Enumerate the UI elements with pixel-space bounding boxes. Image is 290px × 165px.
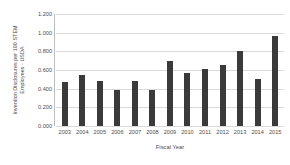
bar[interactable] [114,90,120,126]
bar-slot [214,14,232,126]
bar-slot [231,14,249,126]
x-axis-tick-label: 2012 [214,128,232,140]
bar-slot [109,14,127,126]
x-axis-tick-label: 2013 [231,128,249,140]
y-axis-title: Invention Disclosures per 100 STEM Emplo… [8,14,30,126]
x-axis-tick-label: 2014 [249,128,267,140]
y-axis-title-line-2: Employees - USDA [19,25,26,114]
bar[interactable] [255,79,261,126]
x-axis-tick-label: 2004 [74,128,92,140]
y-axis-tick-label: 0.400 [38,86,52,92]
bar[interactable] [149,90,155,126]
y-axis-tick-label: 1.000 [38,30,52,36]
y-axis-tick-labels: 0.0000.2000.4000.6000.8001.0001.200 [28,14,54,126]
bar[interactable] [132,81,138,126]
x-axis-tick-label: 2006 [109,128,127,140]
bar-slot [126,14,144,126]
bar-slot [196,14,214,126]
x-axis-tick-label: 2003 [56,128,74,140]
bar-slot [56,14,74,126]
x-axis-tick-label: 2011 [196,128,214,140]
bar-slot [179,14,197,126]
bar-chart: Invention Disclosures per 100 STEM Emplo… [0,0,290,165]
bar[interactable] [202,69,208,126]
bar-slot [266,14,284,126]
x-axis-tick-label: 2007 [126,128,144,140]
bar[interactable] [184,73,190,126]
y-axis-tick-label: 0.200 [38,104,52,110]
y-axis-tick-label: 0.000 [38,123,52,129]
bar[interactable] [167,61,173,126]
x-axis-tick-label: 2008 [144,128,162,140]
bar[interactable] [272,36,278,126]
bar-slot [161,14,179,126]
x-axis-tick-label: 2015 [266,128,284,140]
bar[interactable] [97,81,103,126]
x-axis-tick-label: 2010 [179,128,197,140]
bar[interactable] [237,51,243,126]
bar[interactable] [220,65,226,126]
bar[interactable] [79,75,85,126]
y-axis-title-line-1: Invention Disclosures per 100 STEM [12,25,19,114]
y-axis-tick-label: 0.800 [38,48,52,54]
y-axis-tick-label: 0.600 [38,67,52,73]
x-axis-tick-label: 2005 [91,128,109,140]
bar-slot [144,14,162,126]
bar-slot [249,14,267,126]
x-axis-title: Fiscal Year [56,143,284,151]
y-axis-line [54,14,55,126]
plot-area [56,14,284,126]
x-axis-tick-labels: 2003200420052006200720082009201020112012… [56,128,284,140]
bar-slot [74,14,92,126]
bar[interactable] [62,82,68,126]
y-axis-tick-label: 1.200 [38,11,52,17]
x-axis-tick-label: 2009 [161,128,179,140]
bar-series [56,14,284,126]
bar-slot [91,14,109,126]
gridline [56,126,284,127]
